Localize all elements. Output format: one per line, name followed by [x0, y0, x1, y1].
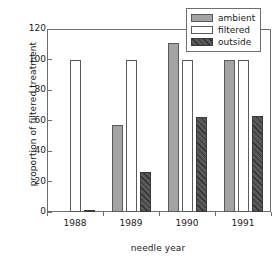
legend-item-filtered: filtered [191, 24, 255, 36]
x-tick-label-1989: 1989 [111, 218, 151, 228]
y-tick-label: 40 [35, 145, 46, 155]
y-tick-mark [48, 181, 52, 182]
y-tick-mark [48, 90, 52, 91]
bar-filtered-1990 [182, 60, 193, 213]
bar-filtered-1988 [70, 60, 81, 213]
y-tick-label: 20 [35, 176, 46, 186]
legend: ambient filtered outside [186, 8, 261, 52]
bar-ambient-1990 [168, 43, 179, 212]
bar-filtered-1991 [238, 60, 249, 213]
bar-outside-1989 [140, 172, 151, 212]
x-tick-mark [159, 212, 160, 216]
y-tick-label: 100 [29, 54, 46, 64]
bar-ambient-1991 [224, 60, 235, 212]
x-tick-mark [215, 212, 216, 216]
x-tick-label-1990: 1990 [167, 218, 207, 228]
bar-filtered-1989 [126, 60, 137, 213]
x-axis-title: needle year [38, 243, 278, 253]
y-tick-label: 60 [35, 115, 46, 125]
bar-ambient-1989 [112, 125, 123, 212]
filtered-swatch-icon [191, 26, 213, 34]
y-tick-label: 120 [29, 23, 46, 33]
x-tick-mark [47, 212, 48, 216]
x-tick-mark [271, 212, 272, 216]
bar-outside-1988 [84, 210, 95, 212]
x-tick-label-1988: 1988 [55, 218, 95, 228]
bar-chart: proportion of filtered treatment needle … [0, 0, 280, 263]
bar-outside-1990 [196, 117, 207, 212]
y-tick-mark [48, 120, 52, 121]
legend-label-ambient: ambient [218, 13, 255, 23]
ambient-swatch-icon [191, 14, 213, 22]
y-tick-mark [48, 29, 52, 30]
y-tick-mark [48, 151, 52, 152]
legend-label-outside: outside [218, 37, 251, 47]
outside-swatch-icon [191, 38, 213, 46]
y-tick-label: 0 [40, 206, 46, 216]
bar-outside-1991 [252, 116, 263, 212]
legend-label-filtered: filtered [218, 25, 250, 35]
y-tick-mark [48, 59, 52, 60]
legend-item-outside: outside [191, 36, 255, 48]
y-tick-mark [48, 212, 52, 213]
x-tick-mark [103, 212, 104, 216]
x-tick-label-1991: 1991 [223, 218, 263, 228]
legend-item-ambient: ambient [191, 12, 255, 24]
y-tick-label: 80 [35, 84, 46, 94]
